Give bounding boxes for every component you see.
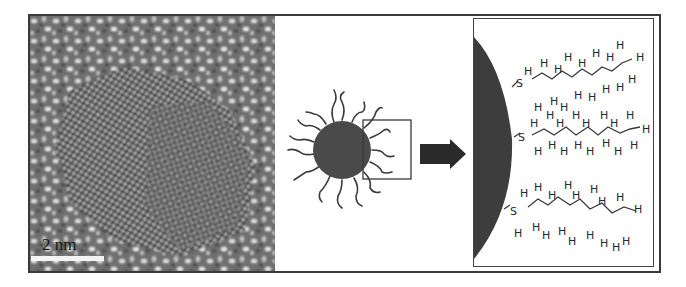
svg-text:H: H xyxy=(540,57,548,70)
svg-text:H: H xyxy=(548,139,556,152)
ligand-zoom-panel: S HH HH HH HH HH HH HH HHH S HH HH HH HH… xyxy=(473,18,654,267)
svg-text:H: H xyxy=(606,51,614,64)
svg-text:H: H xyxy=(616,81,624,94)
svg-text:H: H xyxy=(514,227,522,240)
svg-text:H: H xyxy=(586,229,594,242)
svg-text:H: H xyxy=(600,237,608,250)
svg-text:H: H xyxy=(578,57,586,70)
scale-bar xyxy=(31,256,104,261)
svg-text:H: H xyxy=(598,195,606,208)
svg-text:H: H xyxy=(634,203,642,216)
svg-text:S: S xyxy=(518,131,525,144)
svg-text:H: H xyxy=(602,137,610,150)
svg-text:H: H xyxy=(628,73,636,86)
svg-text:H: H xyxy=(548,189,556,202)
svg-text:H: H xyxy=(616,39,624,52)
svg-text:H: H xyxy=(610,117,618,130)
svg-text:H: H xyxy=(616,191,624,204)
tem-lattice-image xyxy=(30,16,275,271)
svg-text:H: H xyxy=(556,117,564,130)
svg-text:H: H xyxy=(524,65,532,78)
svg-text:H: H xyxy=(622,235,630,248)
nanoparticle-schematic xyxy=(276,16,473,271)
svg-text:H: H xyxy=(630,139,638,152)
svg-text:S: S xyxy=(510,205,517,218)
svg-text:H: H xyxy=(600,109,608,122)
svg-text:H: H xyxy=(636,51,644,64)
svg-text:H: H xyxy=(572,109,580,122)
svg-text:H: H xyxy=(554,63,562,76)
svg-text:H: H xyxy=(550,95,558,108)
arrow-right-icon xyxy=(420,139,466,169)
svg-text:H: H xyxy=(582,117,590,130)
svg-text:S: S xyxy=(516,77,523,90)
svg-text:H: H xyxy=(534,181,542,194)
scale-bar-label: 2 nm xyxy=(42,235,76,255)
svg-text:H: H xyxy=(626,109,634,122)
svg-text:H: H xyxy=(592,47,600,60)
particle-surface xyxy=(474,19,512,267)
svg-text:H: H xyxy=(574,139,582,152)
svg-text:H: H xyxy=(574,89,582,102)
svg-text:H: H xyxy=(564,51,572,64)
svg-text:H: H xyxy=(612,241,620,254)
svg-text:H: H xyxy=(534,145,542,158)
svg-text:H: H xyxy=(642,123,650,136)
svg-text:H: H xyxy=(568,235,576,248)
svg-text:H: H xyxy=(532,221,540,234)
svg-text:H: H xyxy=(558,225,566,238)
svg-text:H: H xyxy=(560,145,568,158)
svg-text:H: H xyxy=(530,117,538,130)
svg-text:H: H xyxy=(534,101,542,114)
svg-text:H: H xyxy=(546,109,554,122)
svg-text:H: H xyxy=(560,101,568,114)
svg-text:H: H xyxy=(586,145,594,158)
svg-text:H: H xyxy=(588,91,596,104)
svg-text:H: H xyxy=(572,189,580,202)
svg-text:H: H xyxy=(614,145,622,158)
svg-text:H: H xyxy=(602,83,610,96)
svg-text:H: H xyxy=(542,229,550,242)
svg-text:H: H xyxy=(520,187,528,200)
nanoparticle-core xyxy=(313,121,371,179)
